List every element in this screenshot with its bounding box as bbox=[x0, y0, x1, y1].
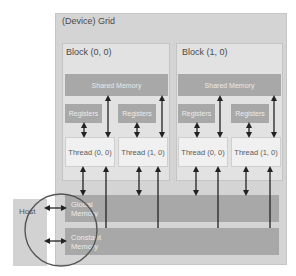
highlight-circle bbox=[25, 194, 97, 266]
arrows-overlay bbox=[0, 0, 296, 276]
